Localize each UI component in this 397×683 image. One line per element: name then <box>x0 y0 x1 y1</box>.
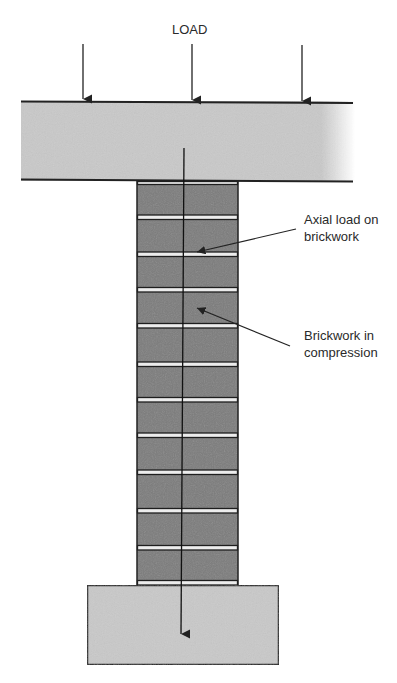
callout-axial-load-line2: brickwork <box>304 228 378 245</box>
load-arrows <box>83 44 302 101</box>
callout-axial-load: Axial load on brickwork <box>304 211 378 245</box>
callout-axial-load-line1: Axial load on <box>304 211 378 228</box>
foundation-base <box>88 586 279 665</box>
load-label: LOAD <box>172 22 207 37</box>
brick-column <box>137 181 238 585</box>
callout-compression: Brickwork in compression <box>304 327 378 361</box>
top-beam <box>21 101 355 182</box>
callout-compression-line2: compression <box>304 344 378 361</box>
callout-compression-line1: Brickwork in <box>304 327 378 344</box>
